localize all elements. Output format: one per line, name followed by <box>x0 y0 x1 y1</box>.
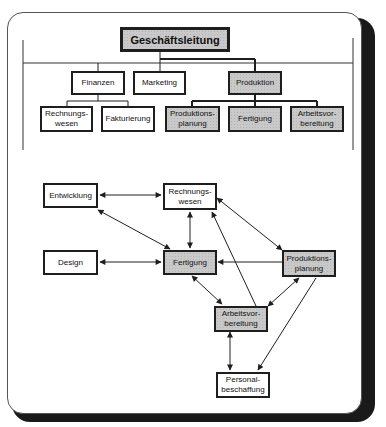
node-arbeitsvorbereitung: Arbeitsvor- bereitung <box>214 306 268 332</box>
network-edges <box>98 195 316 370</box>
node-label: Arbeitsvor- bereitung <box>222 309 261 329</box>
node-personalbeschaffung: Personal- beschaffung <box>216 372 270 398</box>
org-box-label: Marketing <box>142 78 177 88</box>
org-box-finanzen: Finanzen <box>71 71 125 95</box>
node-rechnungswesen: Rechnungs- wesen <box>163 183 217 210</box>
org-box-label: Finanzen <box>82 78 115 88</box>
org-box-label: Produktions- planung <box>170 109 215 129</box>
node-entwicklung: Entwicklung <box>43 183 98 208</box>
node-label: Entwicklung <box>49 191 92 201</box>
org-box-label: Produktion <box>236 78 274 88</box>
org-box-arbeitsvorbereitung: Arbeitsvor- bereitung <box>290 106 344 132</box>
node-fertigung: Fertigung <box>163 250 217 275</box>
node-label: Produktions- planung <box>287 254 332 274</box>
node-label: Personal- beschaffung <box>221 375 264 395</box>
node-label: Design <box>58 258 83 268</box>
node-design: Design <box>43 250 98 275</box>
node-label: Rechnungs- wesen <box>168 187 211 207</box>
org-box-produktion: Produktion <box>228 71 282 95</box>
connector-lines <box>0 0 386 427</box>
org-box-fertigung: Fertigung <box>228 106 282 132</box>
org-box-label: Rechnungs- wesen <box>45 109 88 129</box>
org-box-marketing: Marketing <box>133 71 186 95</box>
org-box-produktionsplanung: Produktions- planung <box>165 106 220 132</box>
node-label: Fertigung <box>173 258 207 268</box>
node-produktionsplanung: Produktions- planung <box>282 250 336 277</box>
org-box-label: Fertigung <box>238 114 272 124</box>
org-box-geschaeftsleitung: Geschäftsleitung <box>120 27 230 52</box>
org-box-label: Fakturierung <box>106 114 151 124</box>
org-box-label: Arbeitsvor- bereitung <box>298 109 337 129</box>
org-box-label: Geschäftsleitung <box>130 35 219 45</box>
org-box-rechnungswesen: Rechnungs- wesen <box>40 106 93 132</box>
org-box-fakturierung: Fakturierung <box>101 106 155 132</box>
